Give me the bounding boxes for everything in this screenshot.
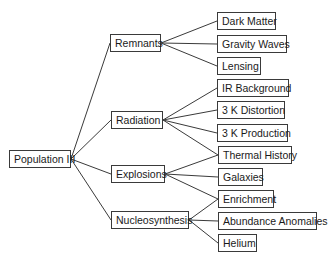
edge-pop3-nucleosynthesis [71, 159, 111, 220]
node-k3-production: 3 K Production [217, 124, 288, 142]
node-thermal-history: Thermal History [218, 146, 292, 164]
edge-nucleosynthesis-enrichment [189, 199, 218, 220]
edge-explosions-galaxies [165, 174, 218, 177]
edge-remnants-gravity_waves [161, 43, 217, 44]
edge-explosions-thermal_history [165, 155, 218, 174]
node-remnants: Remnants [110, 34, 161, 52]
edge-pop3-remnants [71, 43, 110, 159]
node-radiation: Radiation [111, 111, 163, 129]
edge-remnants-dark_matter [161, 21, 217, 43]
edge-pop3-explosions [71, 159, 111, 174]
edge-radiation-thermal_history [163, 120, 218, 155]
edge-pop3-radiation [71, 120, 111, 159]
node-nucleosynthesis: Nucleosynthesis [111, 211, 189, 229]
node-lensing: Lensing [217, 57, 261, 75]
edge-nucleosynthesis-helium [189, 220, 218, 243]
node-explosions: Explosions [111, 165, 165, 183]
edge-explosions-enrichment [165, 174, 218, 199]
node-k3-distortion: 3 K Distortion [217, 101, 285, 119]
node-pop3: Population III [9, 150, 71, 168]
node-enrichment: Enrichment [218, 190, 274, 208]
node-galaxies: Galaxies [218, 168, 263, 186]
edge-nucleosynthesis-abundance_anomalies [189, 220, 218, 221]
node-helium: Helium [218, 234, 257, 252]
edge-radiation-k3_production [163, 120, 217, 133]
node-abundance-anomalies: Abundance Anomalies [218, 212, 317, 230]
node-ir-background: IR Background [217, 79, 289, 97]
edge-remnants-lensing [161, 43, 217, 66]
node-gravity-waves: Gravity Waves [217, 35, 287, 53]
node-dark-matter: Dark Matter [217, 12, 276, 30]
